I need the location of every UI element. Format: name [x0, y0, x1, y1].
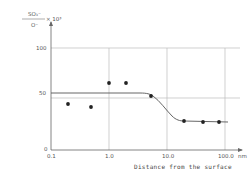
data-points	[66, 81, 221, 124]
data-point	[66, 102, 70, 106]
x-tick-10.0: 10.0	[162, 153, 175, 159]
x-unit: nm	[238, 153, 247, 159]
x-tick-1.0: 1.0	[105, 153, 114, 159]
data-point	[217, 120, 221, 124]
data-point	[149, 94, 153, 98]
y-tick-0: 0	[44, 146, 48, 152]
y-tick-100: 100	[36, 45, 47, 51]
y-axis-label: SO₃⁻ O⁻ × 10³	[22, 11, 62, 28]
gridlines	[51, 48, 240, 150]
chart: SO₃⁻ O⁻ × 10³ 100 50 0 0.1 1.0 10.0 100.…	[0, 0, 250, 178]
y-label-multiplier: × 10³	[46, 16, 62, 22]
y-tick-50: 50	[39, 90, 46, 96]
x-tick-100.0: 100.0	[218, 153, 234, 159]
data-point	[182, 119, 186, 123]
y-label-denominator: O⁻	[31, 22, 38, 28]
data-point	[124, 81, 128, 85]
x-axis-label: Distance from the surface	[134, 163, 232, 170]
data-point	[89, 105, 93, 109]
data-point	[201, 120, 205, 124]
y-label-numerator: SO₃⁻	[28, 11, 41, 17]
axes	[51, 22, 242, 150]
data-point	[107, 81, 111, 85]
x-tick-0.1: 0.1	[47, 153, 56, 159]
fit-curve	[51, 93, 228, 122]
x-axis-arrow	[238, 148, 243, 152]
